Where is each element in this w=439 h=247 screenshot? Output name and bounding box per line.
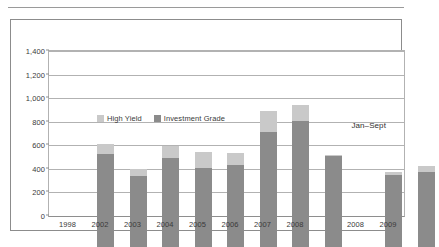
chart-frame: 02004006008001,0001,2001,400 High YieldI… [10,19,402,231]
legend-label: Investment Grade [164,114,225,123]
y-tick-label-600: 600 [11,141,45,150]
bar-segment-high-yield [325,155,342,156]
y-tick-label-1200: 1,200 [11,70,45,79]
legend-swatch-icon [97,115,104,122]
bar-segment-high-yield [97,144,114,153]
legend-item-1: Investment Grade [154,114,225,123]
x-tick-label-9: 2009 [379,220,396,229]
bar-2008-8 [385,172,402,247]
y-tick-mark-1400 [46,50,49,51]
chart-legend: High YieldInvestment Grade [97,114,232,123]
y-tick-label-1400: 1,400 [11,47,45,56]
x-tick-label-6: 2007 [254,220,271,229]
bar-2002-1 [130,169,147,247]
y-tick-label-0: 0 [11,212,45,221]
legend-swatch-icon [154,115,161,122]
gridline-1400 [49,51,404,52]
y-tick-mark-1000 [46,97,49,98]
x-tick-label-5: 2006 [221,220,238,229]
y-tick-label-200: 200 [11,188,45,197]
y-tick-mark-0 [46,215,49,216]
jan-sept-annotation: Jan–Sept [351,121,386,130]
y-tick-label-400: 400 [11,164,45,173]
y-tick-mark-400 [46,167,49,168]
bar-segment-high-yield [292,105,309,121]
bar-segment-investment-grade [130,176,147,247]
y-axis-labels: 02004006008001,0001,2001,400 [11,50,45,217]
y-tick-mark-1200 [46,73,49,74]
bar-segment-high-yield [385,172,402,175]
y-tick-label-1000: 1,000 [11,94,45,103]
bar-segment-investment-grade [418,172,435,247]
x-tick-label-7: 2008 [286,220,303,229]
bar-segment-high-yield [195,152,212,169]
bar-segment-high-yield [227,153,244,164]
x-tick-label-3: 2004 [156,220,173,229]
bar-segment-high-yield [162,146,179,158]
x-tick-label-1: 2002 [91,220,108,229]
x-tick-label-8: 2008 [347,220,364,229]
y-tick-mark-200 [46,191,49,192]
y-tick-label-800: 800 [11,117,45,126]
bar-segment-high-yield [130,169,147,177]
x-tick-label-2: 2003 [124,220,141,229]
bar-segment-investment-grade [385,175,402,247]
y-tick-mark-800 [46,120,49,121]
bar-segment-high-yield [260,111,277,131]
bar-2009-9 [418,166,435,247]
x-axis-labels: 1998200220032004200520062007200820082009 [49,220,404,234]
gridline-1200 [49,75,404,76]
bar-segment-high-yield [418,166,435,171]
x-tick-label-0: 1998 [59,220,76,229]
bar-segment-investment-grade [227,165,244,247]
legend-item-0: High Yield [97,114,142,123]
y-tick-mark-600 [46,144,49,145]
x-tick-label-4: 2005 [189,220,206,229]
top-divider-rule [8,7,404,8]
legend-label: High Yield [107,114,142,123]
bar-segment-investment-grade [195,168,212,247]
plot-area: High YieldInvestment Grade Jan–Sept [48,50,405,217]
